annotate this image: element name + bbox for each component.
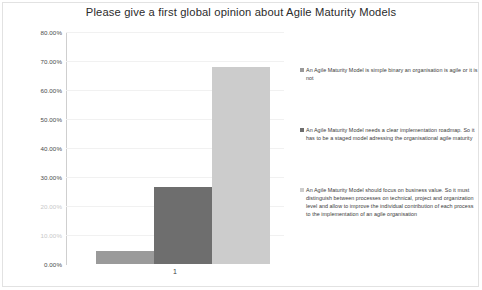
y-axis-tick-1: 70.00% (16, 58, 62, 65)
legend-entry-label: An Agile Maturity Model is simple binary… (306, 66, 478, 82)
y-axis-tick-6: 20.00% (16, 203, 62, 210)
square-swatch-icon (300, 128, 304, 132)
y-axis-tick-0: 80.00% (16, 29, 62, 36)
legend-entry-label: An Agile Maturity Model needs a clear im… (306, 126, 478, 142)
x-axis-category-label: 1 (66, 268, 284, 275)
bar-series-2 (154, 187, 212, 264)
chart-title: Please give a first global opinion about… (0, 6, 482, 18)
bar-series-3 (212, 67, 270, 264)
gridline-0 (66, 32, 284, 33)
gridline-1 (66, 61, 284, 62)
y-axis-tick-4: 40.00% (16, 145, 62, 152)
square-swatch-icon (300, 68, 304, 72)
y-axis-tick-7: 10.00% (16, 232, 62, 239)
legend-entry-1[interactable]: An Agile Maturity Model is simple binary… (300, 66, 478, 82)
y-axis-tick-3: 50.00% (16, 116, 62, 123)
y-axis-tick-5: 30.00% (16, 174, 62, 181)
y-axis-tick-8: 0.00% (16, 261, 62, 268)
legend-entry-label: An Agile Maturity Model should focus on … (306, 186, 478, 218)
square-swatch-icon (300, 188, 304, 192)
y-axis-tick-labels: 80.00%70.00%60.00%50.00%40.00%30.00%20.0… (12, 32, 62, 264)
y-axis-tick-2: 60.00% (16, 87, 62, 94)
bar-series-1 (96, 251, 154, 264)
plot-area (66, 32, 284, 264)
chart-screenshot: Please give a first global opinion about… (0, 0, 482, 290)
legend-entry-3[interactable]: An Agile Maturity Model should focus on … (300, 186, 478, 218)
legend-entry-2[interactable]: An Agile Maturity Model needs a clear im… (300, 126, 478, 142)
